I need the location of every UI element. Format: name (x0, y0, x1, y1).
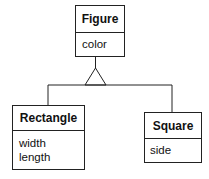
generalization-triangle-icon (85, 68, 106, 85)
class-figure: Figure color (75, 5, 125, 57)
attribute-length: length (19, 150, 84, 164)
class-name-square: Square (145, 113, 201, 139)
class-rectangle: Rectangle width length (12, 105, 85, 170)
attribute-side: side (150, 143, 201, 157)
class-name-rectangle: Rectangle (13, 106, 84, 131)
attribute-width: width (19, 136, 84, 150)
class-name-figure: Figure (76, 6, 124, 33)
attributes-rectangle: width length (13, 131, 84, 164)
attributes-figure: color (76, 33, 124, 51)
attribute-color: color (82, 37, 124, 51)
attributes-square: side (145, 139, 201, 157)
class-square: Square side (144, 112, 202, 163)
